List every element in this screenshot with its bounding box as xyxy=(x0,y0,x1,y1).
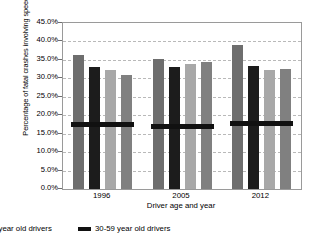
bar xyxy=(232,45,243,189)
x-axis-tick-label: 2005 xyxy=(146,191,216,200)
bar xyxy=(264,70,275,189)
y-axis-tick-label: 25.0% xyxy=(14,92,58,100)
y-axis-tick-label: 30.0% xyxy=(14,73,58,81)
legend-swatch xyxy=(78,227,91,231)
chart-figure: Percentage of fatal crashes involving sp… xyxy=(0,0,322,236)
x-axis-title: Driver age and year xyxy=(62,201,300,210)
legend-label: 30-59 year old drivers xyxy=(95,224,170,233)
reference-line xyxy=(71,122,134,127)
legend-item: 30-59 year old drivers xyxy=(78,224,170,233)
y-axis-tick-label: 10.0% xyxy=(14,147,58,155)
y-axis-tick-label: 15.0% xyxy=(14,129,58,137)
bar xyxy=(89,67,100,189)
plot-area xyxy=(62,22,302,190)
bar xyxy=(280,69,291,189)
y-axis-tick-label: 40.0% xyxy=(14,36,58,44)
y-axis-tick-label: 20.0% xyxy=(14,110,58,118)
y-axis-tick-label: 35.0% xyxy=(14,55,58,63)
chart-legend: 9 year old drivers30-59 year old drivers xyxy=(0,222,322,236)
y-axis-tick-label: 5.0% xyxy=(14,166,58,174)
y-axis-tick-label: 45.0% xyxy=(14,18,58,26)
bar-series-group xyxy=(63,23,301,189)
x-axis-tick-label: 1996 xyxy=(67,191,137,200)
y-axis-tick-label: 0.0% xyxy=(14,184,58,192)
bar xyxy=(105,70,116,189)
bar xyxy=(121,75,132,189)
x-axis-tick-label: 2012 xyxy=(225,191,295,200)
bar xyxy=(248,66,259,189)
legend-label: 9 year old drivers xyxy=(0,224,52,233)
gridline xyxy=(63,189,301,190)
reference-line xyxy=(151,124,214,129)
legend-item: 9 year old drivers xyxy=(0,224,52,233)
reference-line xyxy=(230,121,293,126)
